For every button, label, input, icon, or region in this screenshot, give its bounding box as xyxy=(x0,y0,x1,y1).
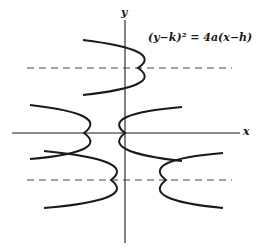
parabola-diagram: (y−k)² = 4a(x−h) y x xyxy=(0,0,261,249)
equation-label: (y−k)² = 4a(x−h) xyxy=(148,31,252,44)
parabola-origin-opens-right xyxy=(119,107,182,161)
y-axis-label: y xyxy=(121,6,127,19)
x-axis-label: x xyxy=(243,125,250,138)
parabola-left-opens-left xyxy=(30,105,90,159)
